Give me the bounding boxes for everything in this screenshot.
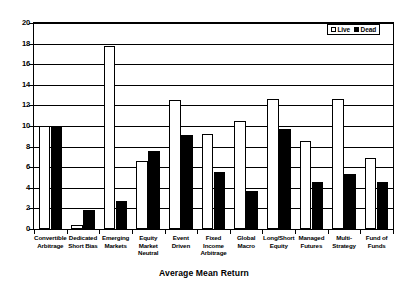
- legend-swatch-dead-icon: [354, 27, 359, 32]
- y-tick-label: 14: [4, 81, 30, 89]
- chart-legend: LiveDead: [327, 24, 380, 35]
- legend-label: Live: [338, 26, 351, 33]
- y-tick-label: 4: [4, 184, 30, 192]
- bar-live: [39, 126, 51, 229]
- y-tick-label: 18: [4, 40, 30, 48]
- y-tick-label: 12: [4, 101, 30, 109]
- bar-group: [165, 23, 198, 229]
- bar-live: [71, 225, 83, 229]
- bar-group: [295, 23, 328, 229]
- bar-group: [328, 23, 361, 229]
- bar-group: [99, 23, 132, 229]
- y-axis: 02468101214161820: [0, 22, 30, 230]
- bars-layer: [34, 23, 393, 229]
- bar-dead: [214, 172, 226, 229]
- bar-dead: [116, 201, 128, 229]
- bar-live: [202, 134, 214, 229]
- bar-live: [104, 46, 116, 229]
- x-tick-label: Fund ofFunds: [357, 234, 396, 249]
- bar-group: [360, 23, 393, 229]
- bar-group: [132, 23, 165, 229]
- bar-dead: [148, 151, 160, 229]
- bar-group: [34, 23, 67, 229]
- bar-live: [169, 100, 181, 229]
- bar-live: [267, 99, 279, 229]
- y-tick-label: 0: [4, 225, 30, 233]
- bar-live: [332, 99, 344, 229]
- bar-group: [67, 23, 100, 229]
- bar-live: [234, 121, 246, 229]
- y-tick-label: 20: [4, 19, 30, 27]
- bar-dead: [377, 182, 389, 229]
- bar-group: [197, 23, 230, 229]
- bar-live: [136, 161, 148, 229]
- x-axis-title: Average Mean Return: [0, 268, 408, 278]
- bar-dead: [246, 191, 258, 229]
- legend-entry-live: Live: [331, 26, 350, 33]
- bar-live: [300, 141, 312, 229]
- y-tick-label: 2: [4, 204, 30, 212]
- bar-dead: [83, 210, 95, 229]
- legend-label: Dead: [361, 26, 377, 33]
- x-axis-labels: ConvertibleArbitrageDedicatedShort BiasE…: [34, 234, 393, 268]
- y-tick-label: 8: [4, 143, 30, 151]
- bar-dead: [312, 182, 324, 229]
- y-tick-label: 16: [4, 60, 30, 68]
- y-tick-label: 10: [4, 122, 30, 130]
- bar-dead: [279, 129, 291, 229]
- bar-dead: [344, 174, 356, 229]
- y-tick-label: 6: [4, 163, 30, 171]
- bar-dead: [51, 126, 63, 229]
- bar-live: [365, 158, 377, 229]
- bar-dead: [181, 135, 193, 229]
- bar-group: [262, 23, 295, 229]
- bar-chart: 02468101214161820 ConvertibleArbitrageDe…: [0, 0, 408, 286]
- legend-swatch-live-icon: [331, 27, 336, 32]
- legend-entry-dead: Dead: [354, 26, 376, 33]
- bar-group: [230, 23, 263, 229]
